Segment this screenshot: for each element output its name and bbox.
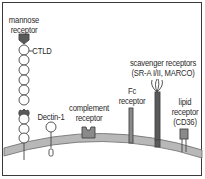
ctld-label: CTLD [32,46,52,56]
mannose-receptor-label: mannose receptor [7,15,41,35]
complement-receptor-label-line1: complement [68,103,111,113]
complement-receptor-icon [82,127,95,138]
fc-receptor-label: Fc receptor [115,86,149,106]
lipid-receptor-label-line1: lipid [169,97,201,107]
mannose-receptor-label-line1: mannose [7,15,41,25]
complement-receptor-label-line2: receptor [68,113,111,123]
dectin-1-label: Dectin-1 [35,112,67,122]
scavenger-receptor-label-line2: (SR-A I/II, MARCO) [125,68,202,78]
scavenger-receptor-label: scavenger receptors (SR-A I/II, MARCO) [125,58,202,78]
cell-membrane [4,133,202,158]
mannose-receptor-label-line2: receptor [7,25,41,35]
scavenger-receptor-label-line1: scavenger receptors [125,58,202,68]
complement-receptor-label: complement receptor [68,103,111,123]
lipid-receptor-label-line2: receptor [169,107,201,117]
scavenger-receptor-icon [152,79,163,147]
lipid-receptor-label: lipid receptor (CD36) [169,97,201,127]
fc-receptor-icon [129,108,133,143]
fc-receptor-label-line1: Fc [115,86,149,96]
lipid-receptor-label-line3: (CD36) [169,117,201,127]
fc-receptor-label-line2: receptor [115,96,149,106]
